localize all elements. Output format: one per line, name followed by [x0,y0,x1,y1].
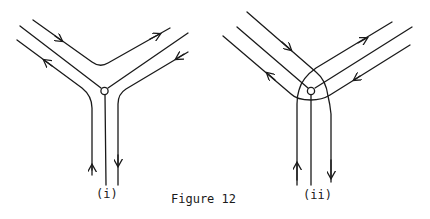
arrow-a-in-icon [282,42,291,50]
line-left-to-node [20,26,101,88]
node-circle-ii [307,87,314,94]
panel-i [17,20,188,185]
line-right-to-node [108,33,188,88]
path-right-lower [118,52,188,185]
arrow-c-out-icon [358,38,367,43]
panel-ii [223,12,412,185]
arrow-upper-out-icon [150,34,160,39]
stem [105,95,106,185]
arrow-upper-in-icon [55,36,62,41]
line-right-to-node-ii [315,27,412,88]
panel-ii-label: (ii) [303,188,332,202]
arrow-right-in-icon [176,54,184,59]
arrow-b-out-icon [267,73,275,80]
figure-caption: Figure 12 [171,192,236,206]
arrow-left-out-icon [44,60,52,66]
panel-i-label: (i) [96,187,118,201]
path-left-lower [17,40,92,170]
path-upper [33,20,170,65]
node-circle [101,87,108,94]
path-a [247,12,331,182]
arrow-right-in-ii-icon [354,76,360,80]
figure-12-diagram [0,0,430,219]
